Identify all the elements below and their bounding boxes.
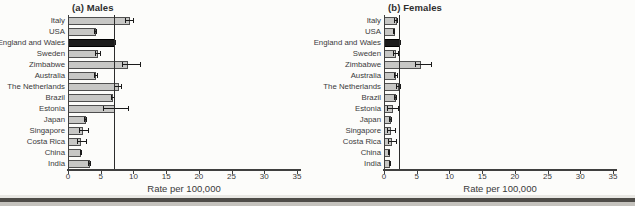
- category-label: USA: [316, 26, 384, 37]
- chart-row: India: [316, 158, 618, 169]
- error-bar-cap: [90, 161, 91, 166]
- chart-row: Italy: [316, 15, 618, 26]
- error-bar: [125, 20, 133, 21]
- plot-cell: [68, 37, 302, 48]
- plot-cell: [68, 136, 302, 147]
- category-label: China: [316, 147, 384, 158]
- chart-row: USA: [0, 26, 302, 37]
- plot-cell: [68, 103, 302, 114]
- error-bar-cap: [415, 62, 416, 67]
- error-bar: [387, 130, 395, 131]
- chart-row: The Netherlands: [0, 81, 302, 92]
- bar-brazil: [68, 94, 113, 102]
- chart-title-males: (a) Males: [72, 2, 302, 15]
- plot-cell: [68, 26, 302, 37]
- chart-row: Costa Rica: [316, 136, 618, 147]
- category-label: Singapore: [0, 125, 68, 136]
- chart-row: Brazil: [0, 92, 302, 103]
- chart-row: Japan: [316, 114, 618, 125]
- error-bar: [387, 108, 399, 109]
- error-bar-cap: [115, 40, 116, 45]
- plot-cell: [68, 81, 302, 92]
- plot-area-females: ItalyUSAEngland and WalesSwedenZimbabweA…: [316, 15, 618, 169]
- category-label: India: [0, 158, 68, 169]
- error-bar-cap: [387, 128, 388, 133]
- category-label: Italy: [0, 15, 68, 26]
- reference-line: [399, 15, 400, 169]
- plot-cell: [384, 103, 618, 114]
- bar-india: [68, 160, 90, 168]
- plot-cell: [68, 92, 302, 103]
- error-bar-cap: [95, 51, 96, 56]
- page-bottom-rule: [0, 195, 635, 206]
- bar-england-and-wales: [68, 39, 115, 47]
- category-label: USA: [0, 26, 68, 37]
- error-bar-cap: [122, 62, 123, 67]
- x-tick-label: 0: [58, 172, 78, 181]
- x-tick-label: 30: [570, 172, 590, 181]
- plot-cell: [384, 59, 618, 70]
- error-bar-cap: [133, 18, 134, 23]
- error-bar-cap: [128, 106, 129, 111]
- error-bar-cap: [94, 73, 95, 78]
- plot-cell: [68, 125, 302, 136]
- error-bar-cap: [393, 51, 394, 56]
- x-tick-label: 25: [222, 172, 242, 181]
- bar-usa: [68, 28, 96, 36]
- plot-cell: [68, 70, 302, 81]
- reference-line: [114, 15, 115, 169]
- plot-cell: [68, 114, 302, 125]
- plot-cell: [384, 48, 618, 59]
- plot-cell: [384, 81, 618, 92]
- error-bar-cap: [394, 29, 395, 34]
- error-bar-cap: [394, 95, 395, 100]
- error-bar-cap: [394, 73, 395, 78]
- plot-cell: [384, 92, 618, 103]
- error-bar-cap: [389, 150, 390, 155]
- category-label: Singapore: [316, 125, 384, 136]
- category-label: Zimbabwe: [316, 59, 384, 70]
- error-bar: [388, 141, 396, 142]
- error-bar-cap: [397, 18, 398, 23]
- chart-row: Estonia: [0, 103, 302, 114]
- bar-italy: [68, 17, 130, 25]
- error-bar-cap: [103, 106, 104, 111]
- chart-row: Zimbabwe: [0, 59, 302, 70]
- chart-row: China: [316, 147, 618, 158]
- error-bar-cap: [390, 161, 391, 166]
- chart-row: England and Wales: [0, 37, 302, 48]
- x-tick-label: 20: [189, 172, 209, 181]
- plot-cell: [384, 147, 618, 158]
- error-bar: [103, 108, 128, 109]
- category-label: England and Wales: [0, 37, 68, 48]
- y-axis-line: [384, 15, 385, 169]
- plot-cell: [68, 59, 302, 70]
- category-label: Italy: [316, 15, 384, 26]
- error-bar-cap: [396, 84, 397, 89]
- chart-row: The Netherlands: [316, 81, 618, 92]
- category-label: The Netherlands: [0, 81, 68, 92]
- plot-cell: [68, 147, 302, 158]
- error-bar-cap: [125, 18, 126, 23]
- error-bar-cap: [140, 62, 141, 67]
- plot-cell: [384, 15, 618, 26]
- chart-title-females: (b) Females: [388, 2, 618, 15]
- error-bar-cap: [81, 150, 82, 155]
- error-bar-cap: [431, 62, 432, 67]
- error-bar: [77, 141, 86, 142]
- chart-row: Costa Rica: [0, 136, 302, 147]
- category-label: Japan: [316, 114, 384, 125]
- category-label: The Netherlands: [316, 81, 384, 92]
- plot-cell: [384, 37, 618, 48]
- error-bar-cap: [86, 117, 87, 122]
- category-label: Brazil: [316, 92, 384, 103]
- chart-row: Zimbabwe: [316, 59, 618, 70]
- category-label: Estonia: [316, 103, 384, 114]
- chart-row: Japan: [0, 114, 302, 125]
- bar-australia: [68, 72, 96, 80]
- error-bar-cap: [121, 84, 122, 89]
- error-bar-cap: [100, 51, 101, 56]
- error-bar-cap: [111, 95, 112, 100]
- x-tick-label: 15: [156, 172, 176, 181]
- x-axis-label-females: Rate per 100,000: [384, 182, 616, 194]
